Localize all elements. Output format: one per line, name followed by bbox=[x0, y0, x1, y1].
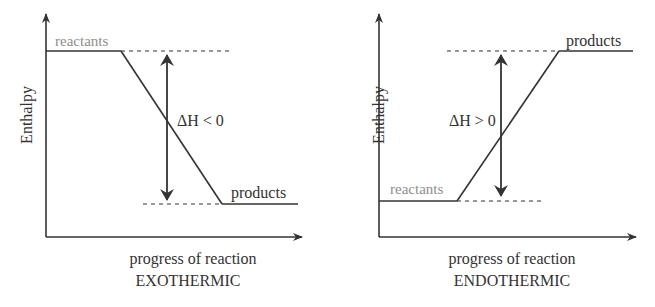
diagram-caption: ENDOTHERMIC bbox=[454, 272, 570, 289]
products-label: products bbox=[566, 32, 621, 50]
products-label: products bbox=[231, 184, 286, 202]
delta-h-label: ΔH < 0 bbox=[177, 112, 224, 129]
x-axis-label: progress of reaction bbox=[129, 250, 256, 268]
reactants-label: reactants bbox=[390, 181, 443, 197]
y-axis-label: Enthalpy bbox=[18, 86, 36, 144]
y-axis-label: Enthalpy bbox=[370, 86, 388, 144]
delta-h-label: ΔH > 0 bbox=[449, 112, 496, 129]
endothermic-diagram: reactants products ΔH > 0 Enthalpy progr… bbox=[370, 14, 636, 289]
enthalpy-diagrams: reactants products ΔH < 0 Enthalpy progr… bbox=[0, 0, 655, 307]
x-axis-label: progress of reaction bbox=[448, 250, 575, 268]
reactants-label: reactants bbox=[55, 33, 108, 49]
diagram-caption: EXOTHERMIC bbox=[136, 272, 241, 289]
exothermic-diagram: reactants products ΔH < 0 Enthalpy progr… bbox=[18, 14, 302, 289]
